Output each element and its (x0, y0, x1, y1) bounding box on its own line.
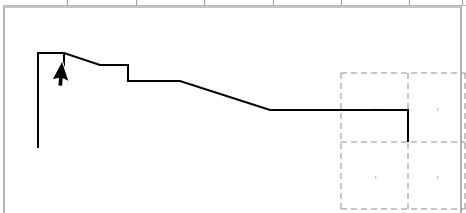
content-frame (3, 6, 462, 213)
screenshot-root: Line-drawing canvas with stepped descend… (0, 0, 466, 213)
